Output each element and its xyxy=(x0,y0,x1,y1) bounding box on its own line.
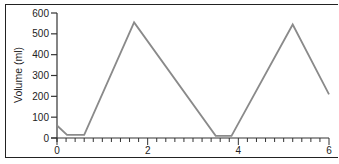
volume-line xyxy=(57,22,329,135)
x-tick-label: 2 xyxy=(145,145,151,156)
y-tick-label: 300 xyxy=(32,70,49,81)
y-tick-label: 100 xyxy=(32,112,49,123)
y-tick-label: 0 xyxy=(43,133,49,144)
y-tick-label: 500 xyxy=(32,28,49,39)
y-axis: 0100200300400500600 xyxy=(32,8,57,144)
x-axis: 0246 xyxy=(51,138,332,156)
y-tick-label: 200 xyxy=(32,91,49,102)
y-axis-title: Volume (ml) xyxy=(12,47,24,103)
y-tick-label: 600 xyxy=(32,8,49,19)
x-tick-label: 4 xyxy=(236,145,242,156)
y-tick-label: 400 xyxy=(32,49,49,60)
x-tick-label: 0 xyxy=(54,145,60,156)
x-tick-label: 6 xyxy=(326,145,332,156)
line-chart: 0100200300400500600 0246 Volume (ml) xyxy=(0,0,339,164)
